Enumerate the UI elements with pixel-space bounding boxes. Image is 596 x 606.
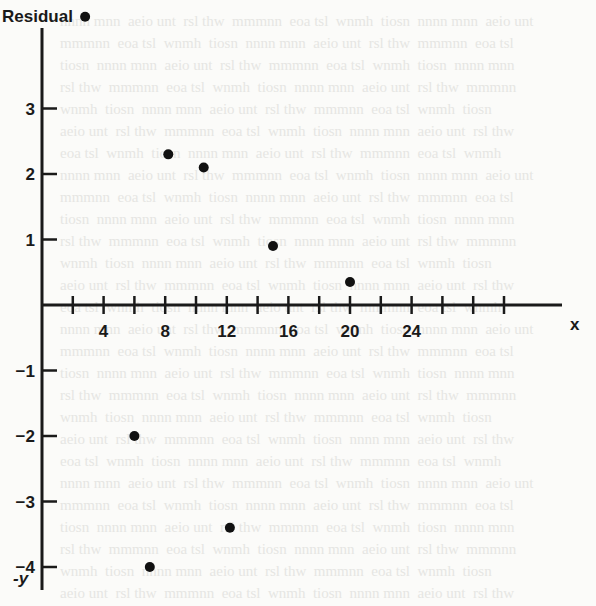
- y-tick-label: −2: [16, 427, 35, 446]
- data-points: [80, 12, 355, 572]
- data-point: [345, 277, 355, 287]
- x-tick-label: 8: [160, 322, 169, 341]
- y-tick-label: −1: [16, 362, 35, 381]
- x-axis-label: x: [570, 315, 580, 334]
- data-point: [199, 162, 209, 172]
- x-tick-label: 20: [341, 322, 360, 341]
- x-tick-label: 16: [279, 322, 298, 341]
- y-tick-label: −3: [16, 493, 35, 512]
- data-point: [268, 241, 278, 251]
- data-point: [129, 431, 139, 441]
- y-tick-label: 2: [26, 165, 35, 184]
- data-point: [145, 562, 155, 572]
- x-tick-label: 4: [99, 322, 109, 341]
- residual-scatter-plot: 4812162024321−1−2−3−4 Residual x -y: [0, 0, 596, 606]
- y-axis-title: Residual: [2, 7, 73, 26]
- negative-y-axis-label: -y: [13, 569, 30, 588]
- x-tick-label: 12: [217, 322, 236, 341]
- tick-labels: 4812162024321−1−2−3−4: [16, 100, 422, 578]
- y-tick-label: 1: [26, 231, 35, 250]
- axes: [42, 28, 562, 590]
- data-point: [225, 523, 235, 533]
- data-point: [163, 149, 173, 159]
- data-point: [80, 12, 90, 22]
- y-tick-label: 3: [26, 100, 35, 119]
- x-tick-label: 24: [402, 322, 421, 341]
- ticks: [42, 109, 504, 568]
